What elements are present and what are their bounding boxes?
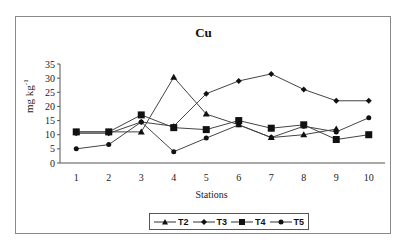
data-point bbox=[203, 126, 210, 133]
x-tick-label: 1 bbox=[74, 172, 79, 183]
y-tick-label: 15 bbox=[45, 115, 55, 126]
x-tick-label: 10 bbox=[364, 172, 374, 183]
data-point bbox=[170, 124, 177, 131]
y-tick-label: 35 bbox=[45, 59, 55, 70]
data-point bbox=[268, 125, 275, 132]
series-lines bbox=[73, 71, 373, 154]
legend-item-t3: T3 bbox=[193, 217, 228, 227]
triangle-marker-icon bbox=[154, 218, 176, 226]
y-tick-label: 25 bbox=[45, 87, 55, 98]
data-point bbox=[268, 71, 274, 77]
y-tick-label: 10 bbox=[45, 129, 55, 140]
x-axis-label: Stations bbox=[0, 189, 407, 200]
axes: 0510152025303512345678910 bbox=[45, 59, 385, 184]
y-tick-label: 20 bbox=[45, 101, 55, 112]
data-point bbox=[204, 136, 209, 141]
legend-label: T2 bbox=[178, 217, 189, 227]
data-point bbox=[334, 129, 339, 134]
y-axis-label: mg kg-1 bbox=[22, 79, 35, 113]
data-point bbox=[170, 74, 177, 80]
y-tick-label: 30 bbox=[45, 73, 55, 84]
legend-item-t2: T2 bbox=[154, 217, 189, 227]
x-tick-label: 9 bbox=[334, 172, 339, 183]
legend-label: T4 bbox=[255, 217, 266, 227]
legend-label: T3 bbox=[217, 217, 228, 227]
y-tick-label: 5 bbox=[50, 143, 55, 154]
x-tick-label: 2 bbox=[106, 172, 111, 183]
data-point bbox=[333, 136, 340, 143]
data-point bbox=[301, 124, 306, 129]
diamond-marker-icon bbox=[193, 218, 215, 226]
data-point bbox=[365, 131, 372, 138]
data-point bbox=[236, 78, 242, 84]
data-point bbox=[171, 149, 176, 154]
x-tick-label: 5 bbox=[204, 172, 209, 183]
data-point bbox=[236, 122, 241, 127]
x-tick-label: 3 bbox=[139, 172, 144, 183]
data-point bbox=[366, 115, 371, 120]
x-tick-label: 4 bbox=[171, 172, 176, 183]
legend-label: T5 bbox=[294, 217, 305, 227]
data-point bbox=[74, 146, 79, 151]
data-point bbox=[138, 111, 145, 118]
data-point bbox=[73, 128, 80, 135]
legend-item-t5: T5 bbox=[270, 217, 305, 227]
legend: T2 T3 T4 T5 bbox=[149, 213, 309, 230]
x-tick-label: 7 bbox=[269, 172, 274, 183]
data-point bbox=[333, 98, 339, 104]
data-point bbox=[105, 128, 112, 135]
data-point bbox=[139, 119, 144, 124]
square-marker-icon bbox=[231, 218, 253, 226]
data-point bbox=[366, 98, 372, 104]
circle-marker-icon bbox=[270, 218, 292, 226]
y-tick-label: 0 bbox=[50, 158, 55, 169]
x-tick-label: 6 bbox=[236, 172, 241, 183]
x-tick-label: 8 bbox=[301, 172, 306, 183]
data-point bbox=[301, 86, 307, 92]
data-point bbox=[269, 135, 274, 140]
legend-item-t4: T4 bbox=[231, 217, 266, 227]
data-point bbox=[106, 142, 111, 147]
